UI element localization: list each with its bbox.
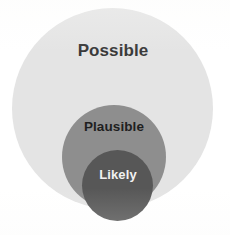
label-possible: Possible: [0, 42, 226, 59]
nested-circles-diagram: Possible Plausible Likely: [0, 0, 230, 235]
circle-likely: [82, 150, 153, 221]
label-plausible: Plausible: [0, 120, 228, 134]
label-likely: Likely: [0, 168, 230, 181]
